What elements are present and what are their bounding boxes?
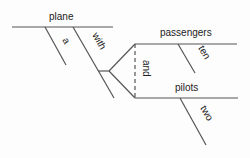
object2-modifier-slant xyxy=(180,98,206,145)
subject-word: plane xyxy=(49,11,74,22)
sentence-diagram: plane a with and passengers ten pilots t… xyxy=(0,0,250,158)
diagram-svg: plane a with and passengers ten pilots t… xyxy=(0,0,250,158)
fork-upper xyxy=(109,44,135,71)
object2-modifier-word: two xyxy=(198,104,216,123)
fork-lower xyxy=(109,71,135,98)
preposition-word: with xyxy=(90,30,109,52)
object2-word: pilots xyxy=(175,82,198,93)
object1-modifier-word: ten xyxy=(196,44,212,62)
conjunction-word: and xyxy=(141,60,152,77)
article-slant xyxy=(45,27,66,65)
object1-modifier-slant xyxy=(178,44,195,73)
article-word: a xyxy=(60,36,73,47)
object1-word: passengers xyxy=(160,27,212,38)
